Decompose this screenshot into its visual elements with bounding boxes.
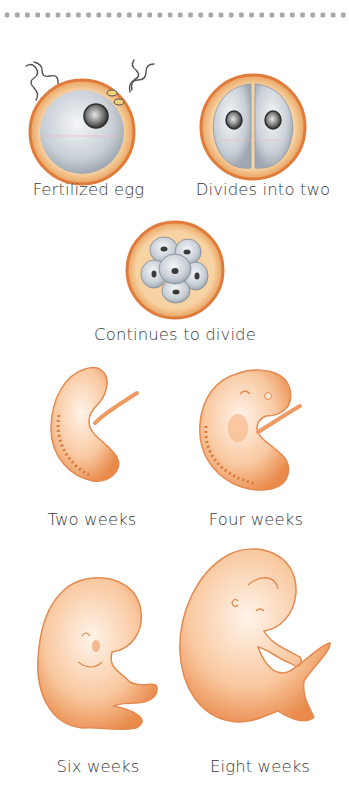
- stage-label-two-cell: Divides into two: [178, 180, 348, 199]
- two-weeks-embryo-illustration: [45, 365, 145, 495]
- stage-label-eight-weeks: Eight weeks: [190, 757, 330, 776]
- stage-label-six-weeks: Six weeks: [28, 757, 168, 776]
- stage-label-two-weeks: Two weeks: [22, 510, 162, 529]
- stage-label-morula: Continues to divide: [80, 325, 270, 344]
- eight-weeks-embryo-illustration: [178, 545, 328, 740]
- four-weeks-embryo-illustration: [196, 366, 306, 496]
- six-weeks-embryo-illustration: [34, 570, 164, 740]
- dotted-divider: [0, 11, 349, 19]
- morula-illustration: [124, 219, 226, 321]
- stage-label-four-weeks: Four weeks: [186, 510, 326, 529]
- fertilized-egg-illustration: [14, 50, 164, 190]
- two-cell-illustration: [198, 72, 308, 182]
- stage-label-fertilized-egg: Fertilized egg: [6, 180, 171, 199]
